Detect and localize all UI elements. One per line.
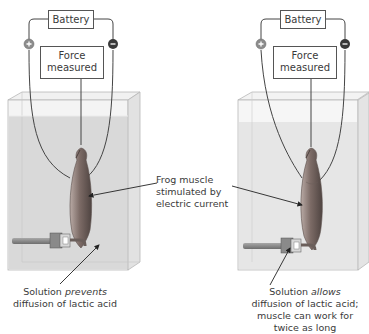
center-label-line3: electric current [156, 198, 242, 210]
right-force-label-1: Force [274, 50, 336, 62]
left-force-label-2: measured [41, 62, 103, 74]
left-caption: Solution prevents diffusion of lactic ac… [10, 286, 120, 310]
right-force-label-2: measured [274, 62, 336, 74]
right-positive-terminal [256, 39, 266, 49]
center-muscle-label: Frog muscle stimulated by electric curre… [150, 174, 242, 210]
left-positive-terminal [24, 39, 34, 49]
left-force-label-1: Force [41, 50, 103, 62]
right-force-box: Force measured [273, 46, 337, 79]
left-caption-line2: diffusion of lactic acid [10, 298, 120, 310]
left-negative-terminal [108, 39, 118, 49]
right-caption-line4: twice as long [246, 322, 364, 334]
right-caption-line2: diffusion of lactic acid; [246, 298, 364, 310]
left-caption-pre: Solution [23, 286, 65, 297]
left-battery-box: Battery [48, 10, 94, 29]
center-label-line1: Frog muscle [156, 174, 242, 186]
right-battery-box: Battery [280, 10, 326, 29]
left-force-box: Force measured [40, 46, 104, 79]
left-battery-label: Battery [52, 14, 89, 25]
left-caption-emphasis: prevents [65, 286, 107, 297]
right-caption: Solution allows diffusion of lactic acid… [246, 286, 364, 334]
right-battery-label: Battery [284, 14, 321, 25]
center-label-line2: stimulated by [156, 186, 242, 198]
right-caption-line3: muscle can work for [246, 310, 364, 322]
right-caption-pre: Solution [269, 286, 311, 297]
right-caption-emphasis: allows [311, 286, 341, 297]
right-negative-terminal [340, 39, 350, 49]
